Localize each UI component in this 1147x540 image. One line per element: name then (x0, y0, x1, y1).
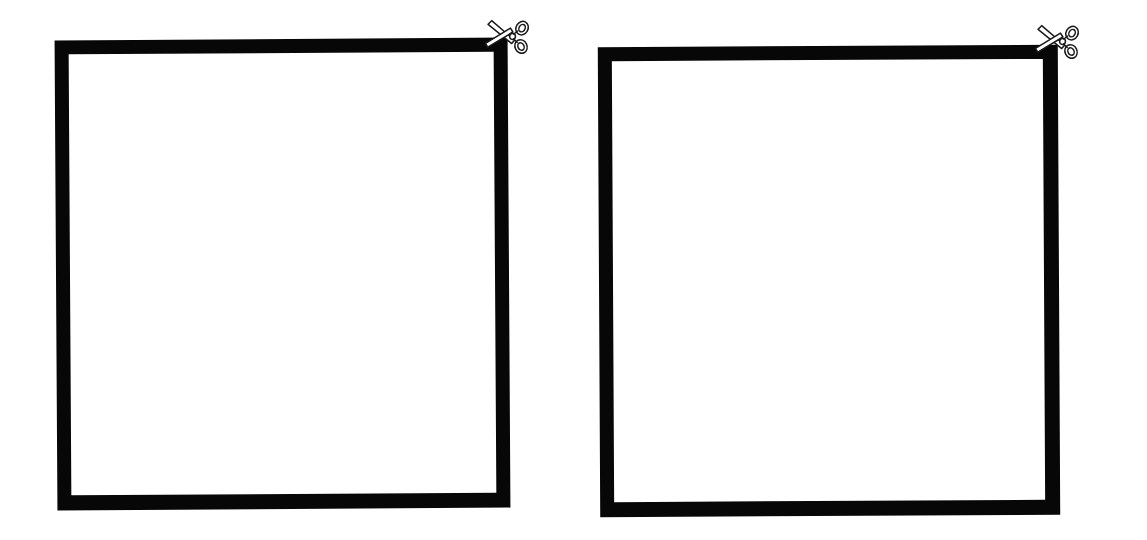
page-canvas (0, 0, 1147, 540)
coupon-content-area-right (598, 45, 1060, 517)
coupon-box-left[interactable] (55, 38, 511, 511)
scissors-icon[interactable] (1033, 21, 1081, 71)
scissors-icon[interactable] (483, 16, 531, 66)
coupon-box-right[interactable] (598, 45, 1060, 517)
coupon-content-area-left (55, 38, 511, 511)
